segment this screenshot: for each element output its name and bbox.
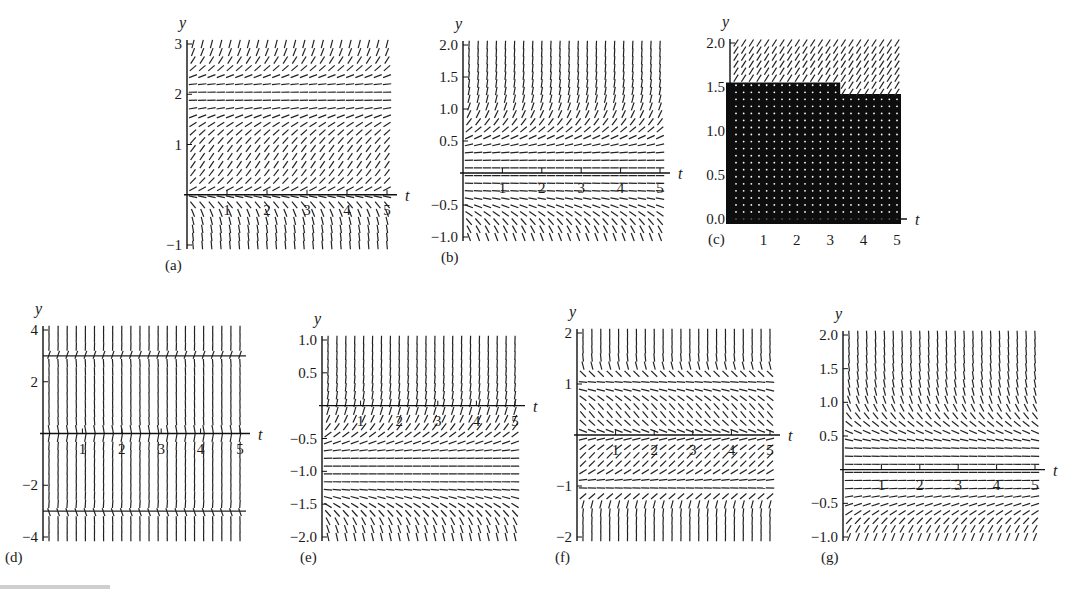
t-tick-label: 3 — [303, 202, 311, 218]
panel-label: (a) — [165, 257, 182, 274]
t-tick-label: 1 — [760, 232, 768, 248]
t-tick-label: 2 — [263, 202, 271, 218]
t-tick-label: 2 — [118, 441, 126, 457]
y-tick-label: −0.5 — [431, 197, 458, 213]
t-axis-label: t — [1053, 462, 1058, 479]
y-tick-label: 2 — [31, 374, 39, 390]
t-axis-label: t — [915, 211, 920, 228]
y-tick-label: −0.5 — [811, 495, 838, 511]
panel-label: (g) — [821, 549, 839, 566]
panel-label: (b) — [441, 249, 459, 266]
y-tick-label: −4 — [22, 529, 38, 545]
panel-label: (c) — [708, 231, 725, 248]
y-axis-label: y — [567, 303, 577, 321]
y-tick-label: 1.5 — [819, 361, 838, 377]
filled-solution-region — [726, 83, 901, 224]
t-tick-label: 5 — [1031, 477, 1039, 493]
y-axis-label: y — [720, 13, 730, 31]
y-tick-label: 0.5 — [439, 133, 458, 149]
t-axis-label: t — [405, 187, 410, 204]
y-axis-label: y — [833, 305, 843, 323]
t-tick-label: 4 — [197, 441, 205, 457]
y-tick-label: −2.0 — [290, 529, 317, 545]
y-tick-label: 3 — [175, 36, 183, 52]
y-axis-label: y — [33, 300, 43, 318]
panel-label: (d) — [5, 549, 23, 566]
slope-field-plots: −112312345yt(a)−1.0−0.50.51.01.52.012345… — [0, 0, 1078, 592]
y-tick-label: 2 — [565, 325, 573, 341]
panel-f: −2−11212345yt(f) — [555, 303, 793, 566]
panel-b: −1.0−0.50.51.01.52.012345yt(b) — [431, 15, 683, 266]
t-tick-label: 5 — [236, 441, 244, 457]
t-tick-label: 4 — [343, 202, 351, 218]
y-tick-label: −1.0 — [431, 229, 458, 245]
t-tick-label: 2 — [916, 477, 924, 493]
y-tick-label: 2 — [175, 86, 183, 102]
figure-caption-cutoff — [0, 585, 110, 589]
y-tick-label: 4 — [31, 322, 39, 338]
t-tick-label: 2 — [395, 413, 403, 429]
y-tick-label: 0.5 — [706, 167, 725, 183]
t-tick-label: 5 — [656, 180, 664, 196]
t-tick-label: 4 — [728, 442, 736, 458]
y-tick-label: −1 — [556, 478, 572, 494]
slope-field-figure: −112312345yt(a)−1.0−0.50.51.01.52.012345… — [0, 0, 1078, 592]
y-tick-label: −0.5 — [290, 431, 317, 447]
t-tick-label: 4 — [473, 413, 481, 429]
y-tick-label: 1 — [565, 376, 573, 392]
t-tick-label: 5 — [766, 442, 774, 458]
t-tick-label: 1 — [612, 442, 620, 458]
y-axis-label: y — [453, 15, 463, 33]
y-tick-label: 1 — [175, 137, 183, 153]
panel-d: −4−22412345yt(d) — [5, 300, 263, 566]
t-axis-label: t — [678, 165, 683, 182]
t-tick-label: 3 — [689, 442, 697, 458]
panel-c: 0.00.51.01.52.012345yt(c) — [706, 13, 920, 248]
y-tick-label: 0.5 — [298, 365, 317, 381]
t-tick-label: 2 — [650, 442, 658, 458]
y-tick-label: 2.0 — [439, 37, 458, 53]
slope-segments — [324, 336, 519, 541]
y-tick-label: −1.0 — [290, 463, 317, 479]
slope-segments — [465, 41, 664, 241]
t-tick-label: 3 — [577, 180, 585, 196]
y-tick-label: 2.0 — [819, 327, 838, 343]
panel-g: −1.0−0.50.51.01.52.012345yt(g) — [811, 305, 1058, 566]
panel-e: −2.0−1.5−1.0−0.50.51.012345yt(e) — [290, 310, 538, 566]
t-tick-label: 2 — [793, 232, 801, 248]
t-tick-label: 4 — [617, 180, 625, 196]
t-tick-label: 1 — [499, 180, 507, 196]
t-tick-label: 3 — [434, 413, 442, 429]
t-axis-label: t — [533, 398, 538, 415]
y-tick-label: −2 — [556, 529, 572, 545]
t-tick-label: 4 — [993, 477, 1001, 493]
y-tick-label: 1.0 — [706, 123, 725, 139]
t-tick-label: 3 — [954, 477, 962, 493]
y-axis-label: y — [312, 310, 322, 328]
t-tick-label: 1 — [878, 477, 886, 493]
y-tick-label: −1 — [166, 237, 182, 253]
t-tick-label: 5 — [511, 413, 519, 429]
t-tick-label: 5 — [893, 232, 901, 248]
slope-segments — [845, 331, 1039, 541]
panel-label: (f) — [555, 549, 570, 566]
t-tick-label: 2 — [538, 180, 546, 196]
t-tick-label: 1 — [79, 441, 87, 457]
y-tick-label: 0.5 — [819, 428, 838, 444]
slope-segments — [189, 40, 391, 249]
t-tick-label: 4 — [860, 232, 868, 248]
t-tick-label: 1 — [223, 202, 231, 218]
y-tick-label: −1.0 — [811, 529, 838, 545]
y-tick-label: 1.0 — [819, 394, 838, 410]
y-tick-label: 1.5 — [439, 69, 458, 85]
y-tick-label: 0.0 — [706, 211, 725, 227]
panel-a: −112312345yt(a) — [165, 14, 410, 274]
t-tick-label: 3 — [157, 441, 165, 457]
y-tick-label: 1.0 — [298, 332, 317, 348]
y-axis-label: y — [177, 14, 187, 32]
t-tick-label: 1 — [357, 413, 365, 429]
panel-label: (e) — [300, 549, 317, 566]
t-tick-label: 5 — [383, 202, 391, 218]
y-tick-label: 1.0 — [439, 101, 458, 117]
y-tick-label: 1.5 — [706, 79, 725, 95]
